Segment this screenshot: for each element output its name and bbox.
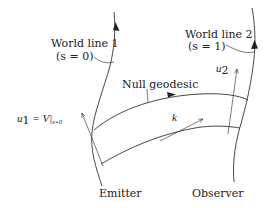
u1-subscript: 1 (23, 114, 30, 127)
u2-subscript: 2 (222, 64, 229, 77)
spacetime-diagram: World line 1 (s = 0) World line 2 (s = 1… (0, 0, 268, 208)
world-line-2-param: (s = 1) (188, 40, 225, 53)
u1-rhs-subscript: s=0 (52, 118, 63, 125)
u2-label: u2 (216, 62, 229, 77)
u1-equation-label: u1 = V|s=0 (17, 112, 63, 127)
null-geodesic-leader (147, 89, 148, 103)
k-label: k (172, 111, 178, 123)
world-line-1-arrow-icon (113, 22, 120, 31)
u2-vector-arrow (228, 69, 237, 134)
k-vector-arrow (160, 119, 203, 141)
null-geodesic-upper (94, 94, 248, 130)
world-line-2-arrow-icon (251, 40, 258, 49)
u1-rhs: = V| (30, 112, 53, 124)
world-line-1-param: (s = 0) (56, 50, 93, 63)
world-line-1-label: World line 1 (51, 37, 119, 50)
emitter-label: Emitter (99, 187, 142, 200)
world-line-2-leader (226, 45, 254, 53)
observer-label: Observer (192, 187, 244, 200)
null-geodesic-lower (101, 126, 240, 164)
null-geodesic-label: Null geodesic (122, 78, 198, 91)
u1-vector-arrow (82, 113, 103, 166)
